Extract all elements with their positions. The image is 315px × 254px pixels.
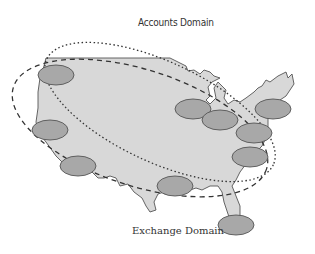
site-northeast	[255, 99, 291, 119]
site-gulf-south	[157, 176, 193, 196]
accounts-domain-label: Accounts Domain	[138, 17, 214, 28]
site-northwest	[38, 65, 74, 85]
site-west-coast-middle	[32, 120, 68, 140]
site-mid-atlantic	[236, 123, 272, 143]
site-southeast	[232, 147, 268, 167]
site-midwest-east	[202, 110, 238, 130]
exchange-domain-label: Exchange Domain	[132, 225, 224, 236]
site-southwest	[60, 156, 96, 176]
domain-map-diagram	[0, 0, 315, 254]
